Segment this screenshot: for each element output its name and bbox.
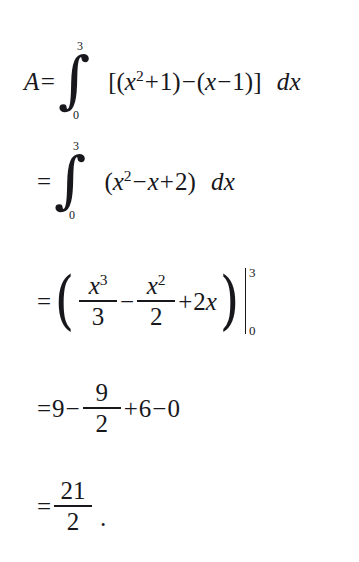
fraction-denominator: 2	[63, 507, 84, 534]
close-paren-1: )	[172, 68, 180, 95]
exponent-2-2: 2	[124, 166, 132, 183]
integral-sign-icon-2: ∫	[54, 161, 86, 199]
variable-x-5: x	[89, 272, 100, 299]
fraction-denominator: 2	[146, 302, 167, 329]
open-paren-1: (	[117, 68, 125, 95]
fraction-denominator: 2	[91, 409, 112, 436]
integrand-expression-2: (x2−x+2) dx	[88, 169, 235, 194]
integrand-expression-1: [(x2+1)−(x−1)] dx	[92, 69, 301, 94]
differential-dx-2: dx	[202, 168, 235, 195]
area-variable-A: A	[24, 69, 40, 94]
evaluation-upper-limit: 3	[249, 266, 256, 279]
constant-one-b: 1	[232, 68, 245, 95]
constant-two: 2	[175, 168, 188, 195]
equals-sign: =	[40, 69, 56, 94]
fraction-numerator: x3	[85, 273, 112, 300]
constant-one-a: 1	[160, 68, 173, 95]
exponent-2-1: 2	[136, 66, 144, 83]
variable-x-3: x	[113, 168, 124, 195]
equation-line-3: = ( x3 3 − x2 2 +2x ) 3 0	[36, 268, 257, 334]
term-zero: 0	[167, 396, 180, 421]
fraction-x-cubed-over-3: x3 3	[79, 273, 117, 329]
big-close-paren: )	[220, 284, 239, 317]
fraction-numerator: 21	[57, 478, 90, 505]
plus-operator-4: +	[123, 396, 139, 421]
variable-x-4: x	[148, 168, 159, 195]
variable-x-6: x	[147, 272, 158, 299]
fraction-denominator: 3	[88, 302, 109, 329]
open-paren-2: (	[197, 68, 205, 95]
equals-sign-3: =	[36, 289, 52, 314]
open-bracket: [	[108, 68, 116, 95]
term-nine: 9	[52, 396, 65, 421]
evaluation-bar-rule	[245, 268, 247, 334]
minus-operator-2: −	[216, 68, 232, 95]
fraction-numerator: 9	[91, 380, 112, 407]
terminal-period: .	[94, 505, 106, 534]
minus-operator-5: −	[65, 396, 81, 421]
minus-operator-1: −	[181, 68, 197, 95]
evaluation-bar: 3 0	[245, 268, 257, 334]
close-bracket: ]	[253, 68, 261, 95]
integral-lower-limit: 0	[73, 109, 79, 121]
minus-operator-4: −	[119, 289, 135, 314]
fraction-9-over-2: 9 2	[83, 380, 121, 436]
exponent-3: 3	[100, 271, 108, 288]
plus-operator-1: +	[144, 68, 160, 95]
close-paren-2: )	[245, 68, 253, 95]
math-worksheet: A = 3 ∫ 0 [(x2+1)−(x−1)] dx = 3 ∫ 0 (x2−…	[0, 0, 359, 562]
evaluation-lower-limit: 0	[249, 324, 256, 337]
equation-line-2: = 3 ∫ 0 (x2−x+2) dx	[36, 162, 235, 200]
variable-x-7: x	[206, 289, 217, 314]
close-paren-3: )	[187, 168, 195, 195]
integral-lower-limit-2: 0	[69, 209, 75, 221]
open-paren-3: (	[104, 168, 112, 195]
minus-operator-3: −	[132, 168, 148, 195]
fraction-numerator: x2	[143, 273, 170, 300]
plus-operator-3: +	[177, 289, 193, 314]
variable-x-1: x	[125, 68, 136, 95]
equals-sign-2: =	[36, 169, 52, 194]
differential-dx-1: dx	[268, 68, 301, 95]
definite-integral-1: 3 ∫ 0	[58, 62, 90, 100]
minus-operator-6: −	[151, 396, 167, 421]
plus-operator-2: +	[159, 168, 175, 195]
coefficient-2: 2	[193, 289, 206, 314]
fraction-21-over-2-result: 21 2	[54, 478, 92, 534]
equals-sign-4: =	[36, 396, 52, 421]
equation-line-4: =9− 9 2 +6−0	[36, 380, 180, 436]
integral-sign-icon: ∫	[58, 61, 90, 99]
equation-line-1: A = 3 ∫ 0 [(x2+1)−(x−1)] dx	[24, 62, 301, 100]
definite-integral-2: 3 ∫ 0	[54, 162, 86, 200]
term-six: 6	[139, 396, 152, 421]
big-open-paren: (	[55, 284, 74, 317]
exponent-2-3: 2	[158, 271, 166, 288]
equals-sign-5: =	[36, 494, 52, 519]
fraction-x-squared-over-2: x2 2	[137, 273, 175, 329]
variable-x-2: x	[205, 68, 216, 95]
equation-line-5-result: = 21 2 .	[36, 478, 106, 534]
